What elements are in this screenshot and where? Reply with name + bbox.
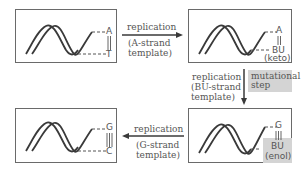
dna-helix-icon [16,109,118,164]
base-g: G [106,123,113,132]
panel-g-c-pair: G C [15,108,117,163]
arrow-label-line3: template) [136,150,180,160]
base-c: C [106,147,112,156]
arrow-label-line2: (G-strand [136,140,179,150]
